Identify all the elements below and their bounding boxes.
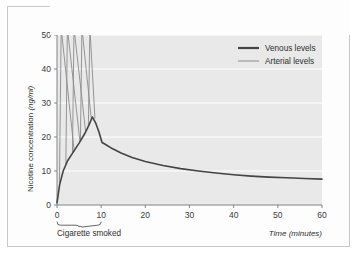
- y-tick-label: 20: [42, 132, 52, 142]
- cigarette-smoked-brace: [57, 222, 101, 227]
- x-tick-label: 50: [273, 210, 283, 220]
- legend-label-venous: Venous levels: [265, 44, 316, 53]
- top-mask: [50, 0, 350, 35]
- x-tick-label: 40: [229, 210, 239, 220]
- y-axis-ticks: 01020304050: [42, 30, 57, 210]
- y-tick-label: 50: [42, 30, 52, 40]
- x-tick-label: 10: [96, 210, 106, 220]
- x-axis-ticks: 0102030405060: [55, 205, 327, 220]
- cigarette-smoked-label: Cigarette smoked: [57, 229, 122, 238]
- y-axis-title-unit: (ng/ml): [26, 85, 35, 110]
- y-axis-title: Nicotine concentration (ng/ml): [26, 85, 35, 192]
- x-tick-label: 60: [317, 210, 327, 220]
- y-tick-label: 0: [46, 200, 51, 210]
- x-tick-label: 0: [55, 210, 60, 220]
- y-tick-label: 10: [42, 166, 52, 176]
- y-axis-title-main: Nicotine concentration: [26, 111, 35, 192]
- figure-container: 01020304050 0102030405060 Venous levels …: [0, 0, 357, 254]
- legend-label-arterial: Arterial levels: [265, 57, 314, 66]
- y-tick-label: 40: [42, 64, 52, 74]
- x-tick-label: 30: [185, 210, 195, 220]
- nicotine-concentration-chart: 01020304050 0102030405060 Venous levels …: [0, 0, 357, 254]
- x-axis-title: Time (minutes): [269, 229, 323, 238]
- x-tick-label: 20: [141, 210, 151, 220]
- y-tick-label: 30: [42, 98, 52, 108]
